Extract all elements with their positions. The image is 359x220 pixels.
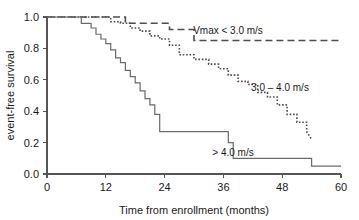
- x-tick-label: 60: [335, 181, 347, 193]
- y-tick-label: 0.2: [24, 137, 39, 149]
- y-axis-title: event-free survival: [4, 51, 16, 141]
- x-tick-label: 48: [276, 181, 288, 193]
- x-axis-ticks: [47, 174, 341, 178]
- kaplan-meier-plot: 0.00.20.40.60.81.0 01224364860 event-fre…: [0, 0, 359, 220]
- y-tick-label: 0.8: [24, 42, 39, 54]
- x-tick-label: 36: [217, 181, 229, 193]
- x-tick-label: 0: [44, 181, 50, 193]
- y-axis-tick-labels: 0.00.20.40.60.81.0: [24, 11, 39, 180]
- x-axis-tick-labels: 01224364860: [44, 181, 347, 193]
- axes-group: [43, 17, 341, 178]
- y-tick-label: 0.6: [24, 74, 39, 86]
- annotation-vmax-low: Vmax < 3.0 m/s: [193, 25, 263, 36]
- survival-chart-figure: 0.00.20.40.60.81.0 01224364860 event-fre…: [0, 0, 359, 220]
- annotation-vmax-high: > 4.0 m/s: [212, 147, 253, 158]
- annotation-vmax-mid: 3.0 – 4.0 m/s: [251, 82, 309, 93]
- y-tick-label: 0.4: [24, 105, 39, 117]
- series-curve: [47, 17, 312, 139]
- y-tick-label: 1.0: [24, 11, 39, 23]
- x-tick-label: 24: [158, 181, 170, 193]
- x-axis-title: Time from enrollment (months): [119, 204, 269, 216]
- y-tick-label: 0.0: [24, 168, 39, 180]
- x-tick-label: 12: [100, 181, 112, 193]
